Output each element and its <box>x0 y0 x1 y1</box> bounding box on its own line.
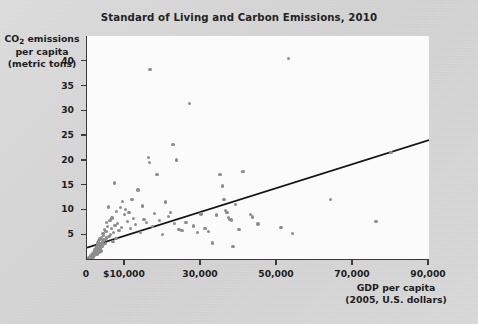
x-tick-label: 90,000 <box>393 268 463 279</box>
scatter-point <box>110 216 113 219</box>
scatter-point <box>230 218 233 221</box>
scatter-point <box>99 249 102 252</box>
x-axis-label: GDP per capita (2005, U.S. dollars) <box>318 282 474 306</box>
scatter-point <box>110 227 113 230</box>
x-axis-label-line2: (2005, U.S. dollars) <box>345 294 447 305</box>
scatter-point <box>389 151 392 154</box>
x-tick-mark <box>427 260 428 265</box>
scatter-point <box>291 232 294 235</box>
x-tick-label: $10,000 <box>89 268 159 279</box>
scatter-point <box>199 212 202 215</box>
scatter-point <box>279 226 282 229</box>
scatter-point <box>158 219 161 222</box>
x-tick-label: 70,000 <box>317 268 387 279</box>
scatter-point <box>148 161 151 164</box>
plot-area <box>86 36 429 260</box>
scatter-point <box>215 213 218 216</box>
y-tick-mark <box>81 159 86 160</box>
scatter-point <box>164 200 167 203</box>
scatter-point <box>117 229 120 232</box>
chart-title: Standard of Living and Carbon Emissions,… <box>0 12 478 23</box>
x-tick-mark <box>123 260 124 265</box>
x-tick-mark <box>351 260 352 265</box>
scatter-point <box>256 222 259 225</box>
y-axis-label-line1: CO2 emissions <box>5 33 80 44</box>
scatter-point <box>196 231 199 234</box>
x-axis-label-line1: GDP per capita <box>357 282 436 293</box>
scatter-point <box>161 233 164 236</box>
scatter-point <box>251 215 254 218</box>
scatter-point <box>203 227 206 230</box>
scatter-point <box>241 170 244 173</box>
scatter-point <box>225 211 228 214</box>
scatter-point <box>234 203 237 206</box>
scatter-point <box>180 229 183 232</box>
scatter-point <box>145 221 148 224</box>
scatter-point <box>120 226 123 229</box>
scatter-point <box>141 204 144 207</box>
y-tick-label: 20 <box>44 154 74 165</box>
scatter-point <box>111 240 114 243</box>
x-tick-mark <box>275 260 276 265</box>
scatter-point <box>184 221 187 224</box>
scatter-point <box>104 230 107 233</box>
scatter-point <box>155 173 158 176</box>
y-tick-mark <box>81 134 86 135</box>
scatter-point <box>126 220 129 223</box>
scatter-point <box>130 198 133 201</box>
scatter-point <box>136 188 139 191</box>
y-tick-mark <box>81 234 86 235</box>
scatter-point <box>173 222 176 225</box>
scatter-point <box>116 222 119 225</box>
scatter-point <box>374 220 377 223</box>
scatter-point <box>231 245 234 248</box>
scatter-point <box>123 213 126 216</box>
x-tick-label: 50,000 <box>241 268 311 279</box>
y-tick-mark <box>81 110 86 111</box>
y-tick-label: 10 <box>44 203 74 214</box>
scatter-point <box>211 241 214 244</box>
plot-inner <box>87 36 429 259</box>
scatter-point <box>113 181 116 184</box>
scatter-point <box>167 215 170 218</box>
scatter-point <box>114 237 117 240</box>
y-tick-label: 35 <box>44 80 74 91</box>
y-tick-label: 25 <box>44 129 74 140</box>
chart-figure: Standard of Living and Carbon Emissions,… <box>0 0 478 324</box>
scatter-point <box>175 158 178 161</box>
y-tick-label: 5 <box>44 228 74 239</box>
scatter-point <box>127 211 130 214</box>
x-tick-label: 30,000 <box>165 268 235 279</box>
y-tick-label: 15 <box>44 179 74 190</box>
scatter-point <box>148 68 151 71</box>
y-tick-mark <box>81 184 86 185</box>
scatter-point <box>222 198 225 201</box>
y-tick-mark <box>81 85 86 86</box>
scatter-point <box>151 225 154 228</box>
scatter-point <box>221 184 224 187</box>
trend-line <box>87 36 429 259</box>
scatter-point <box>192 224 195 227</box>
scatter-point <box>171 143 174 146</box>
scatter-point <box>107 205 110 208</box>
scatter-point <box>287 57 290 60</box>
y-tick-mark <box>81 209 86 210</box>
y-tick-label: 40 <box>44 55 74 66</box>
y-tick-label: 30 <box>44 104 74 115</box>
x-tick-mark <box>199 260 200 265</box>
